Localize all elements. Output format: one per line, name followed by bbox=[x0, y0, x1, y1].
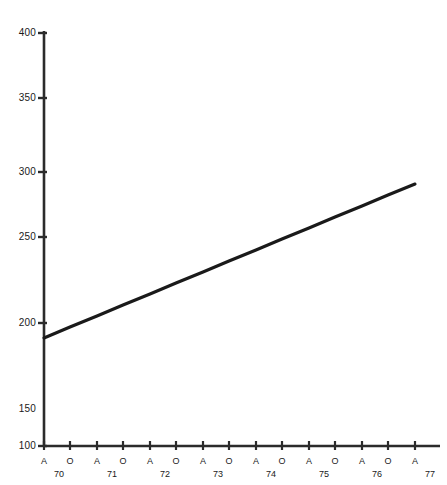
y-axis-ticks bbox=[38, 33, 47, 446]
x-tick-label-3: O bbox=[116, 457, 130, 466]
x-tick-label-8: A bbox=[249, 457, 263, 466]
x-tick-label-4: A bbox=[143, 457, 157, 466]
x-year-label-72: 72 bbox=[156, 470, 174, 479]
x-year-label-71: 71 bbox=[103, 470, 121, 479]
chart-plot-area bbox=[0, 0, 447, 485]
y-tick-label-400: 400 bbox=[4, 28, 36, 38]
y-tick-label-200: 200 bbox=[4, 318, 36, 328]
y-tick-label-350: 350 bbox=[4, 93, 36, 103]
x-year-label-73: 73 bbox=[209, 470, 227, 479]
x-tick-label-2: A bbox=[90, 457, 104, 466]
x-tick-label-12: A bbox=[355, 457, 369, 466]
x-year-label-70: 70 bbox=[50, 470, 68, 479]
x-year-label-75: 75 bbox=[315, 470, 333, 479]
y-tick-label-250: 250 bbox=[4, 232, 36, 242]
x-tick-label-9: O bbox=[275, 457, 289, 466]
x-tick-label-11: O bbox=[328, 457, 342, 466]
x-tick-label-13: O bbox=[381, 457, 395, 466]
x-year-label-74: 74 bbox=[262, 470, 280, 479]
data-series-trend bbox=[44, 184, 415, 338]
x-year-label-76: 76 bbox=[368, 470, 386, 479]
x-tick-label-6: A bbox=[196, 457, 210, 466]
y-tick-label-100: 100 bbox=[4, 441, 36, 451]
x-tick-label-1: O bbox=[63, 457, 77, 466]
x-tick-label-0: A bbox=[37, 457, 51, 466]
x-tick-label-14: A bbox=[408, 457, 422, 466]
y-tick-label-300: 300 bbox=[4, 167, 36, 177]
x-tick-label-10: A bbox=[302, 457, 316, 466]
chart-container: 400 350 300 250 200 150 100 A O A O A O … bbox=[0, 0, 447, 485]
x-tick-label-7: O bbox=[222, 457, 236, 466]
x-tick-label-5: O bbox=[169, 457, 183, 466]
x-year-label-77: 77 bbox=[421, 470, 439, 479]
y-tick-label-150: 150 bbox=[4, 404, 36, 414]
